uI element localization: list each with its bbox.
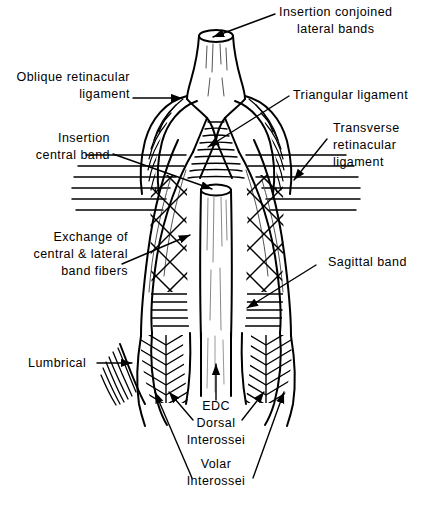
sagittal-band-right-shape (234, 294, 294, 326)
label-insertion-conjoined-lateral-bands-line2: lateral bands (279, 21, 392, 38)
label-oblique-retinacular-ligament-line1: Oblique retinacular (0, 69, 130, 86)
label-volar-interossei-line2: Interossei (176, 473, 256, 490)
label-transverse-retinacular-ligament: Transverse retinacular ligament (333, 120, 400, 171)
label-sagittal-band: Sagittal band (328, 254, 407, 271)
lumbrical-shape (101, 348, 136, 405)
stump-shading (206, 44, 227, 96)
label-triangular-ligament-line1: Triangular ligament (293, 87, 408, 104)
central-band-shading (207, 196, 227, 330)
label-exchange-line1: Exchange of (0, 229, 128, 246)
dorsal-interossei-right-fibers (241, 330, 291, 414)
label-lumbrical-line1: Lumbrical (28, 355, 86, 372)
label-oblique-retinacular-ligament: Oblique retinacular ligament (0, 69, 130, 103)
leader-insertion-conjoined-lateral-bands (213, 14, 275, 37)
label-insertion-central-band-line2: central band (0, 147, 110, 164)
label-insertion-conjoined-lateral-bands: Insertion conjoined lateral bands (279, 4, 392, 38)
label-insertion-central-band-line1: Insertion (0, 130, 110, 147)
lateral-band-right (239, 140, 291, 336)
leader-transverse-retinacular-ligament (294, 139, 327, 180)
label-edc-line1: EDC (186, 398, 246, 415)
label-dorsal-interossei: Dorsal Interossei (176, 415, 256, 449)
label-oblique-retinacular-ligament-line2: ligament (0, 86, 130, 103)
sagittal-band-left-shape (140, 294, 200, 326)
label-transverse-retinacular-ligament-line2: retinacular (333, 137, 400, 154)
lumbrical-outline (120, 344, 145, 404)
label-volar-interossei-line1: Volar (176, 456, 256, 473)
label-lumbrical: Lumbrical (28, 355, 86, 372)
label-sagittal-band-line1: Sagittal band (328, 254, 407, 271)
label-insertion-conjoined-lateral-bands-line1: Insertion conjoined (279, 4, 392, 21)
label-triangular-ligament: Triangular ligament (293, 87, 408, 104)
leader-volar-interossei-right (253, 392, 284, 478)
label-dorsal-interossei-line2: Interossei (176, 432, 256, 449)
label-insertion-central-band: Insertion central band (0, 130, 110, 164)
dorsal-interossei-left-fibers (141, 330, 191, 414)
label-transverse-retinacular-ligament-line3: ligament (333, 154, 400, 171)
label-transverse-retinacular-ligament-line1: Transverse (333, 120, 400, 137)
label-dorsal-interossei-line1: Dorsal (176, 415, 256, 432)
label-exchange-of-central-and-lateral-band-fibers: Exchange of central & lateral band fiber… (0, 229, 128, 280)
diagram-canvas: Insertion conjoined lateral bands Obliqu… (0, 0, 430, 505)
label-exchange-line2: central & lateral (0, 246, 128, 263)
label-edc: EDC (186, 398, 246, 415)
label-exchange-line3: band fibers (0, 263, 128, 280)
insertion-central-band-stump (200, 185, 232, 341)
interossei-right-outline (242, 333, 295, 426)
label-volar-interossei: Volar Interossei (176, 456, 256, 490)
